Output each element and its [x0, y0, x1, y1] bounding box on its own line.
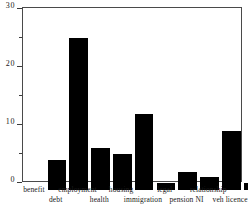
x-axis-labels: benefitdebtemploymenthealthhousingimmigr…	[0, 184, 248, 214]
y-axis: 0102030	[0, 0, 22, 182]
x-axis-label: health	[90, 195, 109, 204]
x-axis-label: pension NI	[169, 195, 203, 204]
x-axis-label: benefit	[23, 185, 45, 194]
x-axis-label: relationship	[190, 185, 227, 194]
plot-area	[22, 7, 242, 182]
bar	[222, 131, 241, 190]
x-axis-label: immigration	[124, 195, 162, 204]
x-axis-label: debt	[49, 195, 62, 204]
y-axis-tick-label: 30	[6, 2, 15, 10]
y-axis-tick-label: 0	[10, 176, 15, 184]
x-axis-label: housing	[109, 185, 133, 194]
bars-layer	[46, 16, 248, 190]
bar	[69, 38, 88, 190]
bar-chart-figure: 0102030 benefitdebtemploymenthealthhousi…	[0, 0, 248, 216]
x-axis-label: veh licence	[213, 195, 248, 204]
bar	[135, 114, 154, 190]
x-axis-label: legal	[157, 185, 172, 194]
y-axis-tick-label: 20	[6, 60, 15, 68]
y-axis-tick-label: 10	[6, 118, 15, 126]
x-axis-label: employment	[58, 185, 97, 194]
